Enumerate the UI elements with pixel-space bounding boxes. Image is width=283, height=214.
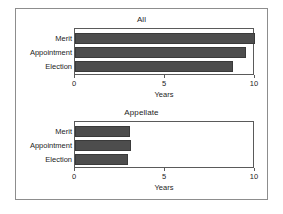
bar-row: Merit <box>75 126 130 137</box>
plot-area-all: Merit Appointment Election <box>74 28 254 75</box>
category-label-election-all: Election <box>45 63 72 71</box>
x-tick-label: 10 <box>250 80 258 88</box>
category-label-appointment-appellate: Appointment <box>30 142 72 150</box>
x-tick-label: 5 <box>162 173 166 181</box>
bar-group-appellate: Merit Appointment Election <box>75 122 253 167</box>
bar-merit-all <box>75 33 255 44</box>
bar-row: Election <box>75 61 233 72</box>
category-label-merit-appellate: Merit <box>55 128 72 136</box>
x-axis-title-appellate: Years <box>74 183 254 192</box>
bar-appointment-appellate <box>75 140 131 151</box>
category-label-election-appellate: Election <box>45 156 72 164</box>
panel-title-appellate: Appellate <box>16 108 267 117</box>
x-tick-mark <box>74 75 75 78</box>
bar-election-all <box>75 61 233 72</box>
x-tick-mark <box>74 168 75 171</box>
plot-area-appellate: Merit Appointment Election <box>74 121 254 168</box>
figure-frame: All Merit Appointment Election 0 <box>15 8 268 200</box>
category-label-merit-all: Merit <box>55 35 72 43</box>
bar-merit-appellate <box>75 126 130 137</box>
x-tick-mark <box>164 168 165 171</box>
bar-row: Merit <box>75 33 255 44</box>
x-tick-label: 0 <box>72 80 76 88</box>
bar-group-all: Merit Appointment Election <box>75 29 253 74</box>
x-tick-mark <box>164 75 165 78</box>
x-tick-label: 5 <box>162 80 166 88</box>
bar-row: Appointment <box>75 140 131 151</box>
x-tick-mark <box>254 168 255 171</box>
chart-panel-all: All Merit Appointment Election 0 <box>16 9 267 105</box>
panel-title-all: All <box>16 15 267 24</box>
x-tick-label: 10 <box>250 173 258 181</box>
bar-appointment-all <box>75 47 246 58</box>
category-label-appointment-all: Appointment <box>30 49 72 57</box>
bar-row: Election <box>75 154 128 165</box>
x-tick-label: 0 <box>72 173 76 181</box>
bar-election-appellate <box>75 154 128 165</box>
bar-row: Appointment <box>75 47 246 58</box>
x-axis-title-all: Years <box>74 90 254 99</box>
chart-panel-appellate: Appellate Merit Appointment Election <box>16 105 267 201</box>
x-tick-mark <box>254 75 255 78</box>
